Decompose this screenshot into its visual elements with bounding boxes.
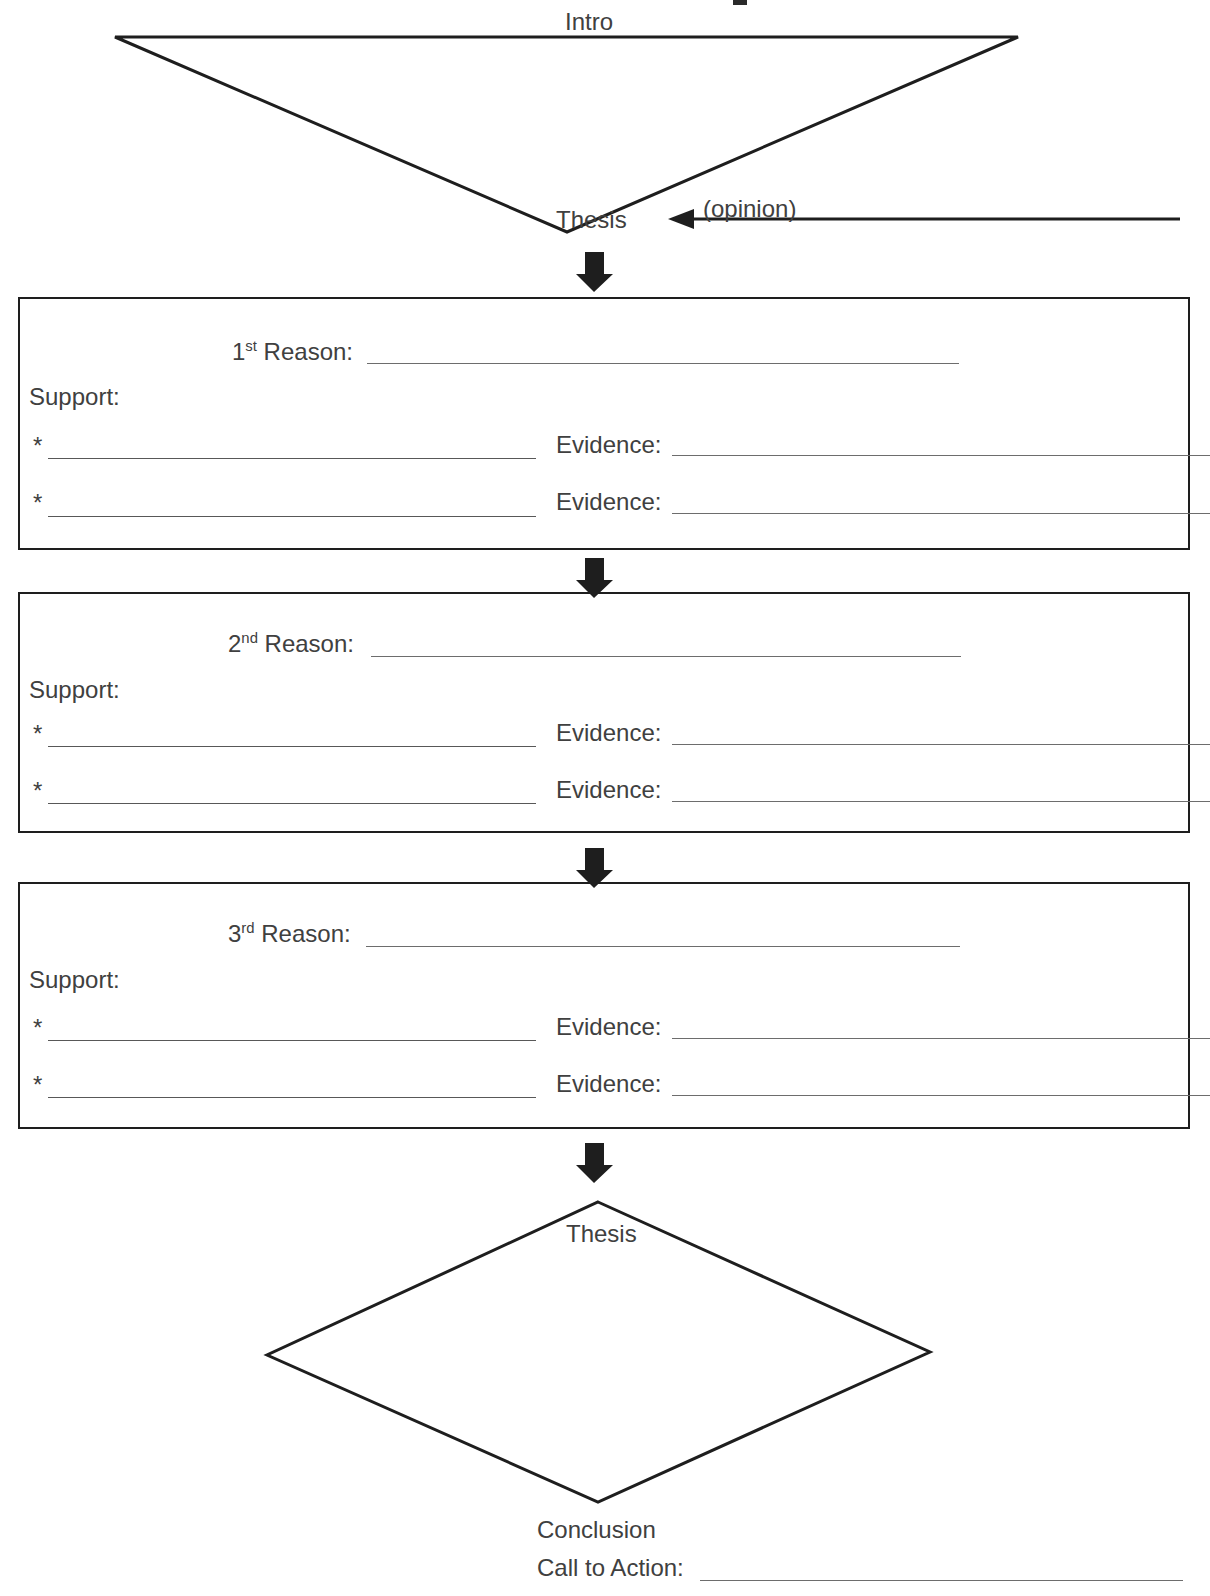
bullet-marker-1-2: *: [33, 491, 42, 515]
conclusion-diamond-shape: [267, 1202, 930, 1502]
flow-arrow-1: [576, 252, 613, 292]
evidence-blank-2-1[interactable]: [672, 744, 1210, 745]
support-blank-1-2[interactable]: [48, 516, 536, 517]
evidence-label-3-2: Evidence:: [556, 1072, 661, 1096]
support-blank-2-2[interactable]: [48, 803, 536, 804]
support-blank-3-1[interactable]: [48, 1040, 536, 1041]
evidence-label-2-2: Evidence:: [556, 778, 661, 802]
evidence-blank-2-2[interactable]: [672, 801, 1210, 802]
support-label-1: Support:: [29, 385, 120, 409]
reason-suffix-2: nd: [241, 630, 258, 646]
intro-triangle-shape: [115, 37, 1018, 232]
call-to-action-label: Call to Action:: [537, 1556, 684, 1580]
evidence-label-3-1: Evidence:: [556, 1015, 661, 1039]
evidence-label-1-2: Evidence:: [556, 490, 661, 514]
evidence-label-2-1: Evidence:: [556, 721, 661, 745]
reason-number-1: 1: [232, 338, 245, 365]
reason-label-1: 1st Reason:: [232, 340, 353, 364]
reason-label-3: 3rd Reason:: [228, 922, 351, 946]
reason-word-2: Reason:: [265, 630, 354, 657]
bullet-marker-3-2: *: [33, 1073, 42, 1097]
bullet-marker-2-2: *: [33, 779, 42, 803]
bullet-marker-2-1: *: [33, 722, 42, 746]
evidence-blank-1-1[interactable]: [672, 455, 1210, 456]
call-to-action-blank[interactable]: [700, 1580, 1183, 1581]
reason-suffix-1: st: [245, 338, 257, 354]
reason-blank-1[interactable]: [367, 363, 959, 364]
flow-arrow-4: [576, 1143, 613, 1183]
thesis-label-bottom: Thesis: [566, 1222, 637, 1246]
worksheet-page: Intro Thesis (opinion) 1st Reason: Suppo…: [0, 0, 1210, 1596]
bullet-marker-1-1: *: [33, 434, 42, 458]
evidence-blank-1-2[interactable]: [672, 513, 1210, 514]
reason-label-2: 2nd Reason:: [228, 632, 354, 656]
opinion-arrow-head: [668, 209, 694, 229]
reason-blank-3[interactable]: [366, 946, 960, 947]
opinion-label: (opinion): [703, 197, 796, 221]
reason-number-2: 2: [228, 630, 241, 657]
support-label-3: Support:: [29, 968, 120, 992]
conclusion-label: Conclusion: [537, 1518, 656, 1542]
reason-blank-2[interactable]: [371, 656, 961, 657]
evidence-blank-3-1[interactable]: [672, 1038, 1210, 1039]
support-blank-1-1[interactable]: [48, 458, 536, 459]
reason-word-1: Reason:: [264, 338, 353, 365]
support-blank-2-1[interactable]: [48, 746, 536, 747]
reason-word-3: Reason:: [261, 920, 350, 947]
support-label-2: Support:: [29, 678, 120, 702]
evidence-blank-3-2[interactable]: [672, 1095, 1210, 1096]
page-top-crop-mark: [733, 0, 747, 5]
intro-label: Intro: [565, 10, 613, 34]
reason-number-3: 3: [228, 920, 241, 947]
bullet-marker-3-1: *: [33, 1016, 42, 1040]
support-blank-3-2[interactable]: [48, 1097, 536, 1098]
thesis-label-top: Thesis: [556, 208, 627, 232]
evidence-label-1-1: Evidence:: [556, 433, 661, 457]
reason-suffix-3: rd: [241, 920, 254, 936]
